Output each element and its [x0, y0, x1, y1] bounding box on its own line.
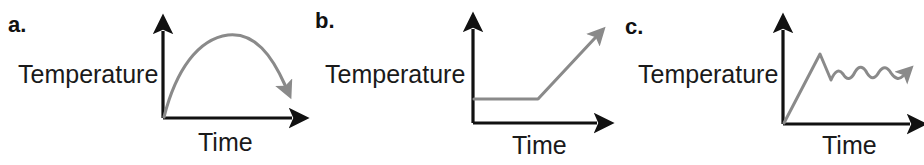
panel-b-curve	[474, 38, 595, 99]
panel-c-plot	[610, 0, 924, 165]
panel-b: b. Temperature Time	[310, 0, 610, 165]
panel-a: a. Temperature Time	[0, 0, 310, 165]
panel-c-curve	[784, 54, 903, 123]
panel-b-plot	[310, 0, 610, 165]
panel-c: c. Temperature Time	[610, 0, 924, 165]
panel-a-curve	[164, 35, 285, 117]
panel-a-plot	[0, 0, 310, 165]
figure-three-temperature-time-graphs: a. Temperature Time b. Temperature Time	[0, 0, 924, 165]
